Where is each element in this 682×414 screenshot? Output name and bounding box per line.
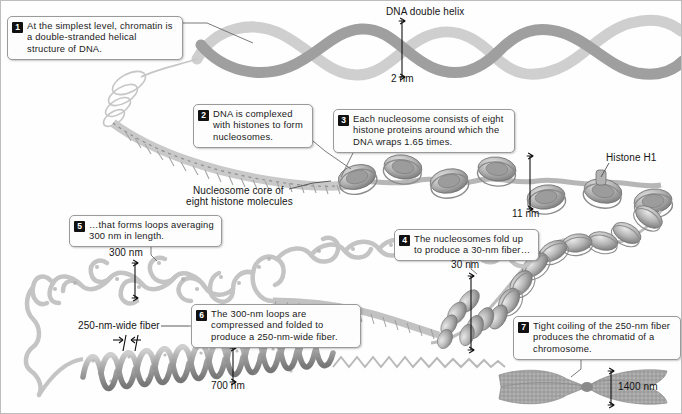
callout-2-text: DNA is complexed with histones to form n… — [213, 108, 306, 142]
callout-2[interactable]: 2 DNA is complexed with histones to form… — [193, 104, 313, 148]
callout-7-badge: 7 — [518, 322, 529, 333]
callout-6[interactable]: 6 The 300-nm loops are compressed and fo… — [191, 304, 361, 348]
histone-h1-art — [596, 170, 606, 185]
callout-7-text: Tight coiling of the 250-nm fiber produc… — [533, 320, 674, 354]
label-250nm-wide-fiber: 250-nm-wide fiber — [78, 320, 160, 332]
callout-5-text: …that forms loops averaging 300 nm in le… — [89, 219, 215, 242]
callout-4-badge: 4 — [399, 235, 410, 246]
dna-double-helix-art — [197, 20, 682, 77]
dim-label-300nm: 300 nm — [109, 247, 143, 258]
callout-1-text: At the simplest level, chromatin is a do… — [27, 20, 176, 54]
dim-label-700nm: 700 nm — [211, 380, 245, 391]
callout-3-badge: 3 — [338, 115, 349, 126]
chromatin-packaging-figure: 1 At the simplest level, chromatin is a … — [0, 0, 682, 414]
dimline-250nm — [113, 335, 141, 351]
dna-transition-coil — [101, 59, 197, 130]
callout-4-text: The nucleosomes fold up to produce a 30-… — [414, 233, 532, 256]
callout-6-text: The 300-nm loops are compressed and fold… — [211, 308, 354, 342]
dim-label-11nm: 11 nm — [512, 208, 540, 219]
dim-label-2nm: 2 nm — [391, 73, 414, 84]
callout-5-badge: 5 — [74, 221, 85, 232]
callout-4[interactable]: 4 The nucleosomes fold up to produce a 3… — [394, 229, 539, 261]
callout-6-badge: 6 — [196, 310, 207, 321]
dim-label-1400nm: 1400 nm — [618, 381, 658, 392]
label-histone-h1: Histone H1 — [606, 152, 656, 164]
dim-label-30nm: 30 nm — [451, 259, 479, 270]
label-nucleosome-core-line2: eight histone molecules — [186, 196, 293, 208]
callout-1-badge: 1 — [12, 22, 23, 33]
label-dna-double-helix: DNA double helix — [386, 6, 464, 18]
callout-3[interactable]: 3 Each nucleosome consists of eight hist… — [333, 109, 515, 153]
callout-5[interactable]: 5 …that forms loops averaging 300 nm in … — [69, 215, 222, 247]
callout-3-text: Each nucleosome consists of eight histon… — [353, 113, 508, 147]
callout-7[interactable]: 7 Tight coiling of the 250-nm fiber prod… — [513, 316, 681, 360]
callout-2-badge: 2 — [198, 110, 209, 121]
callout-1[interactable]: 1 At the simplest level, chromatin is a … — [7, 16, 183, 60]
leader-callout-7 — [571, 360, 581, 377]
